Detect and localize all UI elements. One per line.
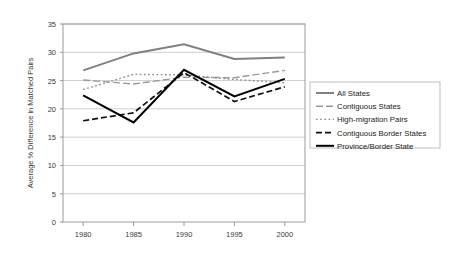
- y-tick-label: 0: [52, 218, 56, 227]
- chart-container: 05101520253035 19801985199019952000 Aver…: [0, 0, 465, 260]
- legend-label-4[interactable]: Province/Border State: [337, 142, 413, 151]
- x-tick-label: 1980: [75, 230, 92, 239]
- y-tick-label: 5: [52, 190, 56, 199]
- y-axis-title: Average % Difference in Matched Pairs: [26, 57, 35, 188]
- legend-label-0[interactable]: All States: [337, 89, 370, 98]
- legend-label-2[interactable]: High-migration Pairs: [337, 115, 408, 124]
- legend-label-1[interactable]: Contiguous States: [337, 102, 401, 111]
- x-tick-label: 1985: [125, 230, 142, 239]
- x-tick-label: 1990: [176, 230, 193, 239]
- y-tick-label: 10: [48, 161, 56, 170]
- y-tick-label: 35: [48, 20, 56, 29]
- y-tick-label: 30: [48, 48, 56, 57]
- y-tick-label: 25: [48, 77, 56, 86]
- y-tick-label: 20: [48, 105, 56, 114]
- line-chart: 05101520253035 19801985199019952000 Aver…: [0, 0, 465, 260]
- legend-label-3[interactable]: Contiguous Border States: [337, 129, 426, 138]
- x-tick-label: 2000: [276, 230, 293, 239]
- x-tick-label: 1995: [226, 230, 243, 239]
- y-tick-label: 15: [48, 133, 56, 142]
